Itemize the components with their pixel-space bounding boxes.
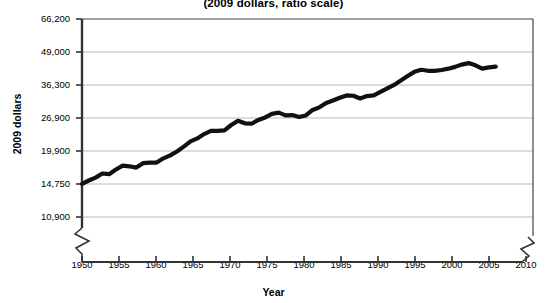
chart-container: (2009 dollars, ratio scale) 2009 dollars… <box>0 0 547 303</box>
y-axis-line <box>75 19 89 262</box>
data-series-line <box>82 63 496 184</box>
chart-plot-svg <box>0 0 547 303</box>
gridlines <box>82 52 533 217</box>
x-axis-line <box>82 237 534 262</box>
